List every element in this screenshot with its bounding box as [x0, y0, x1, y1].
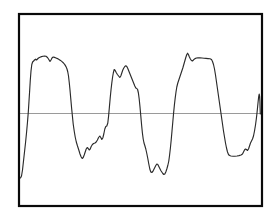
plot-canvas	[0, 0, 275, 218]
waveform-figure	[0, 0, 275, 218]
figure-background	[0, 0, 275, 218]
